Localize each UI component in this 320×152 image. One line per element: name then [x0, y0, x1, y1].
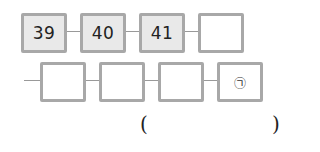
connector-line [86, 80, 99, 81]
connector-line [126, 31, 139, 32]
number-41: 41 [151, 23, 174, 43]
connector-line [67, 31, 80, 32]
answer-blank[interactable] [152, 112, 270, 138]
number-box-1: 39 [21, 13, 67, 53]
circled-giyeok-marker: ㉠ [234, 74, 246, 91]
blank-box-4[interactable] [198, 13, 244, 53]
blank-box-5[interactable] [40, 62, 86, 102]
blank-box-6[interactable] [99, 62, 145, 102]
number-39: 39 [33, 23, 56, 43]
connector-line [145, 80, 158, 81]
number-box-3: 41 [139, 13, 185, 53]
blank-box-7[interactable] [158, 62, 204, 102]
connector-line [185, 31, 198, 32]
number-box-2: 40 [80, 13, 126, 53]
answer-close-paren: ) [272, 112, 280, 136]
answer-open-paren: ( [140, 112, 148, 136]
target-box-giyeok[interactable]: ㉠ [217, 62, 263, 102]
number-40: 40 [92, 23, 115, 43]
connector-line [204, 80, 217, 81]
connector-line [24, 80, 40, 81]
